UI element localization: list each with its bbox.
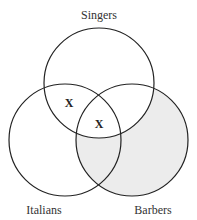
singers-label: Singers (81, 8, 117, 22)
barbers-label: Barbers (134, 203, 172, 217)
x-mark-singers-italians: X (65, 96, 74, 110)
venn-diagram: Singers Italians Barbers X X (0, 0, 197, 220)
shaded-region (0, 0, 197, 220)
italians-label: Italians (26, 203, 62, 217)
x-mark-all-three: X (95, 117, 104, 131)
